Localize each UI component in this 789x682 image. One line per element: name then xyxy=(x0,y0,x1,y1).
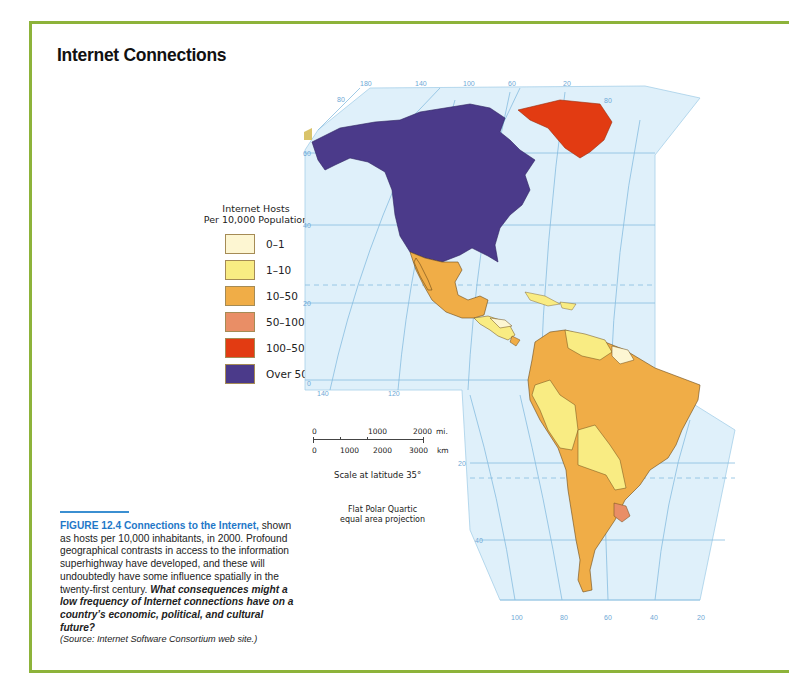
legend-label: 50–100 xyxy=(266,316,305,328)
lat-label: 80 xyxy=(604,97,612,104)
scale-mi-label: 0 xyxy=(312,427,317,436)
scale-mi-label: 2000 xyxy=(413,427,432,436)
lat-label: 40 xyxy=(475,537,483,544)
legend-label: 0–1 xyxy=(266,238,285,250)
scale-mi-label: 1000 xyxy=(368,427,387,436)
scale-line xyxy=(313,439,423,446)
lat-label: 60 xyxy=(303,150,311,157)
caption-source: (Source: Internet Software Consortium we… xyxy=(60,633,295,646)
legend-swatch xyxy=(225,338,255,358)
lat-label: 20 xyxy=(458,460,466,467)
legend-title: Internet Hosts Per 10,000 Population xyxy=(196,203,316,225)
lat-label: 20 xyxy=(303,300,311,307)
scale-km-label: 3000 xyxy=(409,446,428,455)
legend-swatch xyxy=(225,234,255,254)
scale-bar: 0 1000 2000 mi. 0 1000 2000 3000 km xyxy=(310,427,430,458)
figure-caption: FIGURE 12.4 Connections to the Internet,… xyxy=(60,519,295,646)
projection-line2: equal area projection xyxy=(340,515,425,525)
scale-mi-unit: mi. xyxy=(436,427,448,436)
lon-label: 80 xyxy=(560,614,568,621)
projection-line1: Flat Polar Quartic xyxy=(340,505,425,515)
legend-title-line1: Internet Hosts xyxy=(196,203,316,214)
legend-swatch xyxy=(225,286,255,306)
scale-caption: Scale at latitude 35° xyxy=(334,470,421,480)
legend-swatch xyxy=(225,364,255,384)
lon-label: 20 xyxy=(697,614,705,621)
scale-km-label: 1000 xyxy=(340,446,359,455)
lon-label: 60 xyxy=(508,80,516,87)
lon-label: 120 xyxy=(388,390,400,397)
scale-km-label: 2000 xyxy=(373,446,392,455)
map-legend: Internet Hosts Per 10,000 Population 0–1… xyxy=(196,203,316,387)
page-title: Internet Connections xyxy=(57,44,226,66)
figure-label: FIGURE 12.4 xyxy=(60,519,121,531)
lon-label: 140 xyxy=(415,80,427,87)
legend-swatch xyxy=(225,312,255,332)
lon-label: 40 xyxy=(650,614,658,621)
legend-label: 1–10 xyxy=(266,264,291,276)
legend-title-line2: Per 10,000 Population xyxy=(196,214,316,225)
projection-note: Flat Polar Quartic equal area projection xyxy=(340,505,425,525)
region-chukotka xyxy=(304,128,312,140)
scale-km-label: 0 xyxy=(312,446,317,455)
lon-label: 20 xyxy=(563,80,571,87)
lat-label: 80 xyxy=(337,96,345,103)
lon-label: 140 xyxy=(317,390,329,397)
americas-choropleth-map: 180 140 100 60 20 80 80 60 40 20 0 140 1… xyxy=(300,78,777,678)
legend-label: 10–50 xyxy=(266,290,298,302)
lon-label: 60 xyxy=(604,614,612,621)
lon-label: 180 xyxy=(360,80,372,87)
legend-swatch xyxy=(225,260,255,280)
lon-label: 100 xyxy=(511,614,523,621)
caption-rule xyxy=(60,511,129,513)
scale-km-unit: km xyxy=(437,446,449,455)
lat-label: 0 xyxy=(307,380,311,387)
lon-label: 100 xyxy=(463,80,475,87)
lat-label: 40 xyxy=(303,222,311,229)
figure-heading: Connections to the Internet, xyxy=(124,519,259,531)
